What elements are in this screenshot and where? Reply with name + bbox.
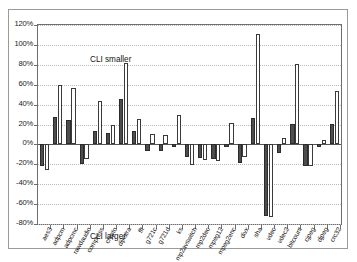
plot-area: CLI smaller CLI larger — [37, 24, 342, 225]
x-axis-tick-label: ks — [175, 226, 184, 235]
y-axis-tick-label: 80% — [0, 60, 33, 68]
bar-light — [45, 144, 49, 170]
bar-dark — [40, 144, 44, 166]
y-axis-tick-label: -80% — [0, 219, 33, 227]
bar-group — [38, 25, 51, 224]
bar-light — [177, 115, 181, 145]
bar-group — [328, 25, 341, 224]
y-axis-tick-label: 0% — [0, 139, 33, 147]
bar-light — [124, 63, 128, 145]
bar-light — [150, 134, 154, 144]
bar-light — [269, 144, 273, 217]
bar-light — [242, 144, 246, 157]
bar-dark — [251, 118, 255, 145]
bar-group — [301, 25, 314, 224]
y-axis-tick-label: 100% — [0, 40, 33, 48]
bar-group — [170, 25, 183, 224]
bar-group — [209, 25, 222, 224]
bar-group — [143, 25, 156, 224]
x-axis-tick-label: sha — [252, 226, 263, 238]
bar-dark — [198, 144, 202, 158]
bar-dark — [66, 120, 70, 145]
x-axis-tick-label: vdec — [264, 226, 277, 241]
bar-light — [98, 101, 102, 145]
x-axis-tick-label: crc32 — [329, 226, 343, 243]
y-axis-tick-label: 120% — [0, 20, 33, 28]
bar-dark — [145, 144, 149, 151]
bar-group — [236, 25, 249, 224]
bar-dark — [290, 124, 294, 145]
bar-light — [322, 140, 326, 144]
bar-group — [157, 25, 170, 224]
bar-dark — [159, 144, 163, 151]
bar-dark — [303, 144, 307, 166]
bar-group — [288, 25, 301, 224]
bar-light — [163, 135, 167, 144]
bar-light — [111, 125, 115, 144]
x-axis-tick-label: fft — [136, 226, 145, 234]
bar-group — [275, 25, 288, 224]
x-axis-tick-label: divx — [239, 226, 251, 239]
bar-group — [64, 25, 77, 224]
x-axis-labels: aes3adpcmadpcmcrawdaudiocompresscryptodi… — [37, 225, 342, 258]
annotation-cli-smaller: CLI smaller — [90, 55, 131, 64]
bar-dark — [317, 144, 321, 147]
bar-dark — [119, 99, 123, 145]
bar-light — [216, 144, 220, 161]
x-axis-tick-label: g721d — [156, 226, 171, 245]
y-axis-tick-label: -60% — [0, 199, 33, 207]
bar-group — [51, 25, 64, 224]
bar-dark — [330, 124, 334, 145]
bar-dark — [80, 144, 84, 164]
bar-group — [249, 25, 262, 224]
bar-series-layer — [38, 25, 341, 224]
bar-group — [130, 25, 143, 224]
bar-dark — [106, 133, 110, 144]
bar-light — [282, 138, 286, 144]
y-axis-tick-label: 20% — [0, 120, 33, 128]
bar-group — [183, 25, 196, 224]
bar-group — [315, 25, 328, 224]
bar-light — [84, 144, 88, 159]
bar-light — [295, 64, 299, 145]
bar-dark — [238, 144, 242, 163]
bar-light — [229, 123, 233, 145]
bar-group — [262, 25, 275, 224]
bar-group — [196, 25, 209, 224]
bar-light — [58, 85, 62, 145]
x-axis-tick-label: cjpeg — [302, 226, 316, 243]
bar-group — [222, 25, 235, 224]
bar-dark — [277, 144, 281, 153]
y-axis-tick-label: -20% — [0, 159, 33, 167]
bar-dark — [185, 144, 189, 157]
bar-light — [203, 144, 207, 160]
bar-light — [308, 144, 312, 166]
y-axis-tick-label: -40% — [0, 179, 33, 187]
bar-group — [78, 25, 91, 224]
bar-dark — [172, 144, 176, 147]
bar-dark — [93, 131, 97, 144]
bar-dark — [132, 131, 136, 144]
bar-dark — [211, 144, 215, 159]
bar-dark — [264, 144, 268, 216]
bar-light — [137, 119, 141, 145]
bar-light — [335, 91, 339, 145]
bar-light — [71, 88, 75, 145]
bar-dark — [53, 117, 57, 145]
y-axis-tick-label: 40% — [0, 100, 33, 108]
x-axis-tick-label: djpeg — [315, 226, 329, 243]
x-axis-tick-label: aes3 — [40, 226, 53, 242]
bar-light — [190, 144, 194, 165]
bar-dark — [224, 144, 228, 147]
bar-light — [256, 34, 260, 144]
y-axis-tick-label: 60% — [0, 80, 33, 88]
